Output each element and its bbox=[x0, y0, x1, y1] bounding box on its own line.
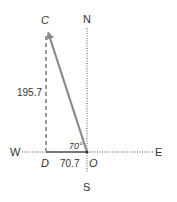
point-o-label: O bbox=[89, 157, 98, 169]
point-d-label: D bbox=[41, 157, 49, 169]
vertical-measurement: 195.7 bbox=[17, 87, 42, 98]
origin-dot bbox=[86, 151, 89, 154]
point-c-label: C bbox=[41, 14, 49, 26]
east-label: E bbox=[155, 146, 162, 158]
north-label: N bbox=[83, 13, 91, 25]
vector-diagram: C N S W E D O 195.7 70.7 70° bbox=[0, 0, 177, 202]
south-label: S bbox=[83, 181, 90, 193]
angle-label: 70° bbox=[69, 141, 83, 151]
resultant-vector-arrow bbox=[49, 35, 87, 152]
horizontal-measurement: 70.7 bbox=[60, 158, 80, 169]
west-label: W bbox=[10, 146, 21, 158]
